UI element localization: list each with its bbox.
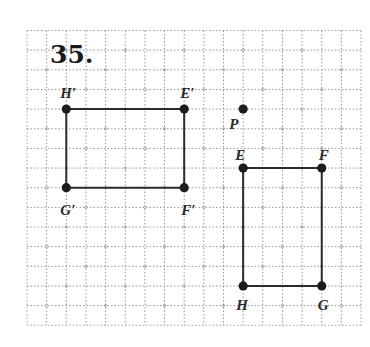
vertex-point [317, 163, 326, 172]
vertex-point [62, 105, 71, 114]
vertex-point [180, 105, 189, 114]
preimage-rectangle-EFGH: EFGH [234, 147, 329, 313]
vertex-label: G′ [60, 202, 75, 218]
vertex-point [317, 281, 326, 290]
vertex-label: E [234, 147, 245, 163]
dilation-diagram: 35. H′E′F′G′ EFGH P [0, 0, 370, 347]
vertex-label: F′ [180, 202, 195, 218]
image-rectangle-EpFpGpHp: H′E′F′G′ [59, 85, 195, 218]
center-point [239, 105, 248, 114]
center-of-dilation-P: P [229, 105, 248, 133]
vertex-point [239, 163, 248, 172]
vertex-point [62, 183, 71, 192]
vertex-label: F [318, 147, 329, 163]
vertex-point [180, 183, 189, 192]
vertex-label: H′ [59, 85, 76, 101]
problem-number: 35. [50, 40, 94, 69]
vertex-label: G [318, 297, 329, 313]
vertex-label: H [235, 297, 249, 313]
coordinate-grid [27, 31, 361, 326]
center-label: P [229, 116, 239, 132]
vertex-point [239, 281, 248, 290]
vertex-label: E′ [179, 85, 194, 101]
